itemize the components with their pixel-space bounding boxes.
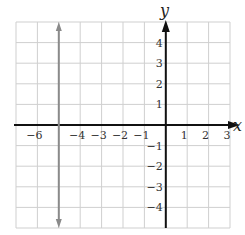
line-arrow-up-icon <box>56 22 62 31</box>
y-tick-label: 4 <box>156 37 163 50</box>
x-tick-label: −4 <box>69 129 85 142</box>
x-tick-label: 2 <box>202 129 209 142</box>
y-tick-label: −1 <box>147 140 163 153</box>
y-axis-label: y <box>159 1 170 20</box>
x-tick-label: −3 <box>90 129 106 142</box>
line-arrow-down-icon <box>56 219 62 228</box>
x-tick-label: −6 <box>26 129 42 142</box>
x-axis-label: x <box>233 116 242 135</box>
y-tick-label: −3 <box>147 181 163 194</box>
y-tick-label: 3 <box>156 57 163 70</box>
x-tick-label: −2 <box>112 129 128 142</box>
y-tick-label: 1 <box>156 98 163 111</box>
y-tick-label: 2 <box>156 78 163 91</box>
axes <box>14 20 240 228</box>
x-tick-label: 3 <box>224 129 231 142</box>
y-tick-label: −4 <box>147 201 163 214</box>
x-tick-label: 1 <box>181 129 188 142</box>
y-tick-label: −2 <box>147 160 163 173</box>
coordinate-plane: −6−4−3−2−11234321−1−2−3−4 x y <box>0 0 245 235</box>
